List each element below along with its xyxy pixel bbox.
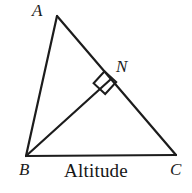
segment-ac — [57, 16, 176, 155]
segment-bc — [26, 155, 176, 156]
vertex-label-n: N — [116, 58, 127, 75]
geometry-figure: A N B C Altitude — [0, 0, 192, 193]
vertex-label-a: A — [32, 2, 42, 19]
segment-ab — [26, 16, 57, 156]
segment-altitude-bn — [26, 79, 111, 156]
caption-altitude: Altitude — [0, 161, 192, 180]
